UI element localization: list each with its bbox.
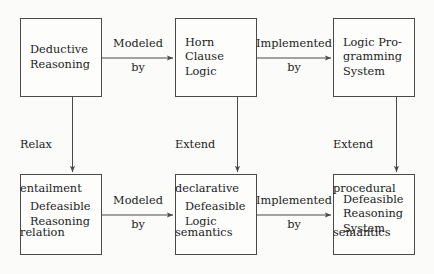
node-label-line: Horn — [185, 36, 214, 51]
edge-label-top-implemented: Implemented — [254, 37, 334, 52]
flow-diagram: Deductive Reasoning Horn Clause Logic Lo… — [0, 0, 434, 274]
node-label-line: System — [343, 65, 385, 80]
edge-label-extend-declarative-semantics: Extend declarative semantics — [175, 109, 237, 270]
edge-label-bottom-modeled: Modeled — [103, 194, 173, 209]
edge-label-line: procedural — [333, 182, 395, 197]
edge-label-relax-entailment-relation: Relax entailment relation — [20, 109, 80, 270]
edge-label-line: declarative — [175, 182, 237, 197]
node-logic-programming-system[interactable]: Logic Pro- gramming System — [333, 18, 415, 97]
node-deductive-reasoning[interactable]: Deductive Reasoning — [20, 18, 102, 97]
edge-label-line: relation — [20, 226, 80, 241]
edge-label-bottom-modeled-by: by — [103, 218, 173, 233]
edge-label-line: semantics — [175, 226, 237, 241]
edge-label-bottom-implemented: Implemented — [254, 194, 334, 209]
edge-label-bottom-implemented-by: by — [254, 218, 334, 233]
edge-label-top-modeled-by: by — [103, 61, 173, 76]
edge-label-top-modeled: Modeled — [103, 37, 173, 52]
node-label-line: gramming — [343, 50, 402, 65]
edge-label-line: entailment — [20, 182, 80, 197]
node-label-line: Reasoning — [30, 58, 90, 73]
node-label-line: Clause — [185, 50, 224, 65]
node-label-line: Logic Pro- — [343, 36, 402, 51]
edge-label-top-implemented-by: by — [254, 61, 334, 76]
edge-label-line: semantics — [333, 226, 395, 241]
edge-label-line: Relax — [20, 138, 80, 153]
node-label-line: Deductive — [30, 43, 88, 58]
node-horn-clause-logic[interactable]: Horn Clause Logic — [175, 18, 257, 97]
edge-label-extend-procedural-semantics: Extend procedural semantics — [333, 109, 395, 270]
edge-label-line: Extend — [175, 138, 237, 153]
edge-label-line: Extend — [333, 138, 395, 153]
node-label-line: Logic — [185, 65, 217, 80]
